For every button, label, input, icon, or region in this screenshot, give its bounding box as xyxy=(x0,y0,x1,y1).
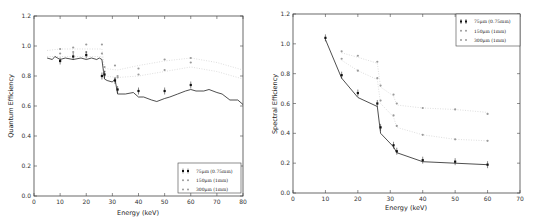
data-point xyxy=(101,52,103,54)
trend-line xyxy=(342,53,488,113)
y-tick-label: 0.8 xyxy=(21,72,31,79)
x-tick-label: 10 xyxy=(322,195,330,202)
data-point xyxy=(59,60,61,62)
x-tick-label: 0 xyxy=(32,198,36,205)
left-y-axis-label: Quantum Efficiency xyxy=(7,74,15,138)
x-tick-label: 20 xyxy=(354,195,362,202)
data-point xyxy=(396,102,398,104)
data-point xyxy=(190,61,192,63)
x-tick-label: 10 xyxy=(56,198,64,205)
data-point xyxy=(392,93,394,95)
data-point xyxy=(341,58,343,60)
data-point xyxy=(103,73,105,75)
data-point xyxy=(190,84,192,86)
data-point xyxy=(454,138,456,140)
data-point xyxy=(379,126,381,128)
left-legend-label-150um: 150μm (1mm) xyxy=(196,178,228,183)
data-point xyxy=(376,102,378,104)
data-point xyxy=(379,85,381,87)
data-point xyxy=(376,61,378,63)
data-point xyxy=(454,108,456,110)
left-legend: 75μm (0.75mm) 150μm (1mm) 300μm (1mm) xyxy=(178,163,241,193)
right-series xyxy=(324,34,488,168)
right-legend-label-300um: 300μm (1mm) xyxy=(474,38,506,43)
x-tick-label: 70 xyxy=(516,195,524,202)
data-point xyxy=(392,114,394,116)
data-point xyxy=(101,43,103,45)
data-point xyxy=(324,37,326,39)
y-tick-label: 0.4 xyxy=(21,132,31,139)
y-tick-label: 0.6 xyxy=(280,100,290,107)
data-point xyxy=(357,70,359,72)
data-point xyxy=(422,107,424,109)
legend-marker xyxy=(460,39,462,41)
figure-canvas: 01020304050607080 0.00.20.40.60.81.01.2 … xyxy=(0,0,535,221)
y-tick-label: 0.0 xyxy=(21,192,31,199)
x-tick-label: 0 xyxy=(291,195,295,202)
x-tick-label: 30 xyxy=(109,198,117,205)
data-point xyxy=(137,90,139,92)
left-x-axis-label: Energy (keV) xyxy=(117,209,159,217)
right-legend: 75μm (0.75mm) 150μm (1mm) 300μm (1mm) xyxy=(456,14,520,46)
data-point xyxy=(164,90,166,92)
data-point xyxy=(114,79,116,81)
data-point xyxy=(101,75,103,77)
y-tick-label: 0.0 xyxy=(280,189,290,196)
quantum-efficiency-chart: 01020304050607080 0.00.20.40.60.81.01.2 … xyxy=(7,12,247,217)
left-legend-label-75um: 75μm (0.75mm) xyxy=(196,169,233,174)
data-point xyxy=(357,55,359,57)
legend-marker xyxy=(187,179,189,181)
right-legend-label-75um: 75μm (0.75mm) xyxy=(474,19,511,24)
x-tick-label: 60 xyxy=(187,198,195,205)
data-point xyxy=(114,64,116,66)
legend-marker xyxy=(460,21,462,23)
legend-marker xyxy=(465,39,467,41)
y-tick-label: 1.0 xyxy=(280,40,290,47)
right-y-axis-label: Spectral Efficiency xyxy=(271,74,279,134)
data-point xyxy=(190,57,192,59)
x-tick-label: 80 xyxy=(239,198,247,205)
model-line xyxy=(47,57,243,105)
x-tick-label: 40 xyxy=(135,198,143,205)
x-tick-label: 20 xyxy=(82,198,90,205)
data-point xyxy=(117,75,119,77)
model-line xyxy=(325,39,487,164)
data-point xyxy=(376,77,378,79)
legend-marker xyxy=(182,179,184,181)
data-point xyxy=(341,50,343,52)
y-tick-label: 0.8 xyxy=(280,70,290,77)
data-point xyxy=(164,69,166,71)
x-tick-label: 40 xyxy=(419,195,427,202)
data-point xyxy=(117,88,119,90)
data-point xyxy=(422,159,424,161)
legend-marker xyxy=(460,30,462,32)
data-point xyxy=(396,150,398,152)
right-x-axis-label: Energy (keV) xyxy=(385,204,427,212)
legend-marker xyxy=(182,170,184,172)
data-point xyxy=(454,161,456,163)
legend-marker xyxy=(465,30,467,32)
data-point xyxy=(59,48,61,50)
y-tick-label: 0.4 xyxy=(280,129,290,136)
data-point xyxy=(357,92,359,94)
x-tick-label: 50 xyxy=(161,198,169,205)
data-point xyxy=(59,52,61,54)
data-point xyxy=(486,164,488,166)
data-point xyxy=(72,55,74,57)
data-point xyxy=(103,66,105,68)
data-point xyxy=(137,73,139,75)
data-point xyxy=(341,74,343,76)
data-point xyxy=(137,67,139,69)
data-point xyxy=(486,113,488,115)
x-tick-label: 70 xyxy=(213,198,221,205)
legend-marker xyxy=(187,189,189,191)
data-point xyxy=(85,54,87,56)
data-point xyxy=(486,140,488,142)
left-legend-label-300um: 300μm (1mm) xyxy=(196,187,228,192)
y-tick-label: 1.2 xyxy=(21,12,31,19)
trend-line xyxy=(47,57,243,80)
y-tick-label: 0.2 xyxy=(21,162,31,169)
spectral-efficiency-chart: 010203040506070 0.00.20.40.60.81.01.2 En… xyxy=(271,10,524,212)
data-point xyxy=(72,51,74,53)
y-tick-label: 0.2 xyxy=(280,159,290,166)
